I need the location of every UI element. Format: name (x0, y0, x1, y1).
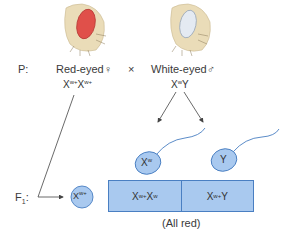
offspring-male-cell: Xw+Y (181, 181, 254, 211)
punnett-row: Xw+Xw Xw+Y (108, 180, 254, 212)
cross-symbol: × (128, 63, 134, 75)
f1-phenotype-note: (All red) (162, 217, 201, 229)
offspring-female-cell: Xw+Xw (109, 181, 181, 211)
female-fly-head-icon (65, 4, 106, 56)
egg-label: Xw+ (73, 191, 87, 201)
female-genotype: Xw+Xw+ (63, 79, 92, 90)
f1-generation-label: F1: (15, 191, 29, 205)
male-fly-head-icon (171, 4, 211, 56)
female-symbol-icon: ♀ (104, 63, 112, 75)
sperm-xw-label: Xw (141, 157, 152, 168)
male-phenotype-label: White-eyed♂ (151, 63, 215, 75)
sperm-y-label: Y (220, 154, 227, 165)
parent-generation-label: P: (18, 63, 28, 75)
male-symbol-icon: ♂ (207, 63, 215, 75)
male-genotype: XwY (171, 79, 189, 90)
female-phenotype-label: Red-eyed♀ (56, 63, 112, 75)
